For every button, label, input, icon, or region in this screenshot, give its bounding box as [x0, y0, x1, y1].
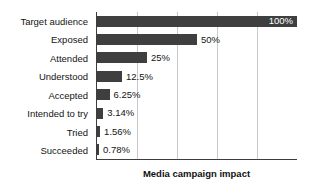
bar: [97, 16, 297, 27]
bar-row: 25%: [97, 49, 297, 67]
category-label: Exposed: [0, 31, 92, 50]
bar-value-label: 50%: [201, 35, 220, 45]
bar-value-label: 0.78%: [103, 145, 130, 155]
bar: [97, 108, 103, 119]
category-label: Intended to try: [0, 105, 92, 124]
bar-row: 0.78%: [97, 141, 297, 159]
category-label: Succeeded: [0, 142, 92, 161]
bar-value-label: 3.14%: [107, 108, 134, 118]
bar: [97, 144, 99, 155]
bar: [97, 34, 197, 45]
category-label: Tried: [0, 123, 92, 142]
bar-series: 100%50%25%12.5%6.25%3.14%1.56%0.78%: [97, 12, 297, 159]
bar-row: 1.56%: [97, 122, 297, 140]
bar-value-label: 12.5%: [126, 72, 153, 82]
bar-row: 3.14%: [97, 104, 297, 122]
bar: [97, 71, 122, 82]
category-label: Target audience: [0, 12, 92, 31]
category-axis: Target audienceExposedAttendedUnderstood…: [0, 12, 92, 160]
bar-row: 50%: [97, 30, 297, 48]
bar-value-label: 100%: [269, 16, 293, 26]
bar-row: 12.5%: [97, 67, 297, 85]
bar: [97, 52, 147, 63]
category-label: Understood: [0, 68, 92, 87]
bar: [97, 126, 100, 137]
bar-row: 6.25%: [97, 86, 297, 104]
category-label: Attended: [0, 49, 92, 68]
bar-value-label: 1.56%: [104, 127, 131, 137]
chart-title: Media campaign impact: [96, 168, 297, 179]
bar: [97, 89, 110, 100]
category-label: Accepted: [0, 86, 92, 105]
bar-value-label: 25%: [151, 53, 170, 63]
plot-area: 100%50%25%12.5%6.25%3.14%1.56%0.78%: [96, 12, 297, 160]
bar-value-label: 6.25%: [114, 90, 141, 100]
bar-chart: Target audienceExposedAttendedUnderstood…: [0, 0, 312, 194]
bar-row: 100%: [97, 12, 297, 30]
